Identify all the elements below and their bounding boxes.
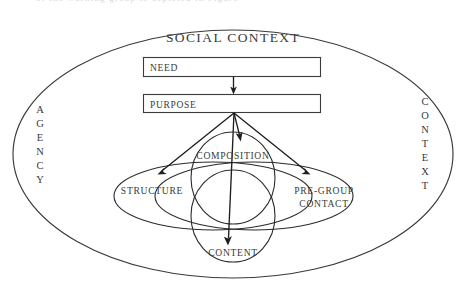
figure-canvas: of the working group is depicted in Figu… — [0, 0, 466, 297]
purpose-box-label: PURPOSE — [150, 100, 197, 110]
svg-text:N: N — [36, 146, 44, 157]
lobe-label-contact: CONTACT — [299, 198, 348, 209]
need-box: NEED — [144, 58, 321, 77]
purpose-box: PURPOSE — [144, 95, 321, 113]
svg-text:A: A — [36, 104, 44, 115]
svg-text:O: O — [421, 110, 429, 121]
side-label-context: C O N T E X T — [421, 96, 429, 191]
svg-text:T: T — [422, 180, 429, 191]
svg-text:C: C — [36, 160, 43, 171]
need-box-label: NEED — [150, 63, 178, 73]
svg-text:E: E — [422, 152, 428, 163]
svg-text:Y: Y — [36, 174, 44, 185]
diagram-title: SOCIAL CONTEXT — [166, 30, 300, 45]
lobe-label-pre-group: PRE-GROUP — [294, 185, 354, 196]
lobe-ellipse-structure — [114, 162, 312, 230]
lobe-label-structure: STRUCTURE — [121, 185, 183, 196]
svg-text:C: C — [421, 96, 428, 107]
svg-text:X: X — [421, 166, 429, 177]
arrow-purpose-to-pre-group-contact — [234, 113, 311, 175]
svg-text:N: N — [421, 124, 429, 135]
side-label-agency: A G E N C Y — [36, 104, 44, 185]
svg-text:T: T — [422, 138, 429, 149]
lobe-label-composition: COMPOSITION — [196, 150, 269, 161]
arrow-need-to-purpose — [230, 77, 237, 95]
social-context-diagram: SOCIAL CONTEXT A G E N C Y C O N T E X T… — [0, 0, 466, 297]
svg-text:G: G — [36, 118, 44, 129]
lobe-label-content: CONTENT — [208, 247, 258, 258]
svg-text:E: E — [37, 132, 43, 143]
arrow-purpose-to-structure — [158, 113, 235, 175]
lobe-ellipse-pre-group-contact — [155, 162, 353, 230]
